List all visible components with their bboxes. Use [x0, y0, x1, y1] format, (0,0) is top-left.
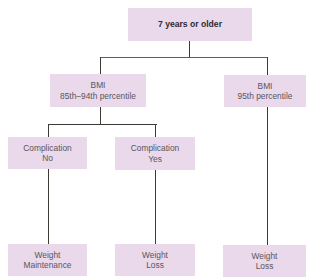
connector-yes-to-loss [155, 170, 156, 244]
root-node-label: 7 years or older [158, 19, 222, 30]
node-label-line1: Weight [142, 250, 168, 261]
connector-to-bmi-95 [267, 57, 268, 75]
root-node-age: 7 years or older [128, 8, 252, 41]
outcome-weight-loss-bmi-95: Weight Loss [223, 245, 306, 277]
connector-no-to-maintenance [48, 169, 49, 244]
connector-bmi-85-94-down [100, 107, 101, 125]
connector-bmi-95-to-loss [267, 107, 268, 245]
node-label-line2: Yes [148, 154, 162, 165]
node-label-line1: Weight [35, 250, 61, 261]
node-label-line2: Loss [146, 260, 164, 271]
connector-root-down [189, 41, 190, 58]
node-label-line2: No [42, 153, 53, 164]
node-label-line1: Weight [252, 251, 278, 262]
node-bmi-85-94: BMI 85th–94th percentile [50, 74, 146, 107]
node-label-line1: Complication [23, 143, 71, 154]
node-label-line2: Loss [256, 261, 274, 272]
decision-tree-diagram: 7 years or older BMI 85th–94th percentil… [0, 0, 313, 279]
connector-to-complication-yes [155, 124, 156, 137]
connector-to-bmi-85-94 [100, 57, 101, 74]
node-label-line1: Complication [131, 143, 179, 154]
outcome-weight-loss-complication: Weight Loss [115, 244, 195, 276]
node-complication-no: Complication No [8, 137, 87, 169]
node-label-line2: 95th percentile [238, 91, 293, 102]
node-label-line1: BMI [91, 80, 106, 91]
node-label-line2: Maintenance [24, 260, 72, 271]
node-label-line2: 85th–94th percentile [60, 91, 136, 102]
outcome-weight-maintenance: Weight Maintenance [8, 244, 87, 276]
node-label-line1: BMI [258, 81, 273, 92]
connector-root-bus [100, 57, 268, 58]
node-complication-yes: Complication Yes [115, 137, 195, 170]
connector-to-complication-no [48, 124, 49, 137]
connector-complication-bus [48, 124, 157, 125]
node-bmi-95: BMI 95th percentile [224, 75, 306, 107]
